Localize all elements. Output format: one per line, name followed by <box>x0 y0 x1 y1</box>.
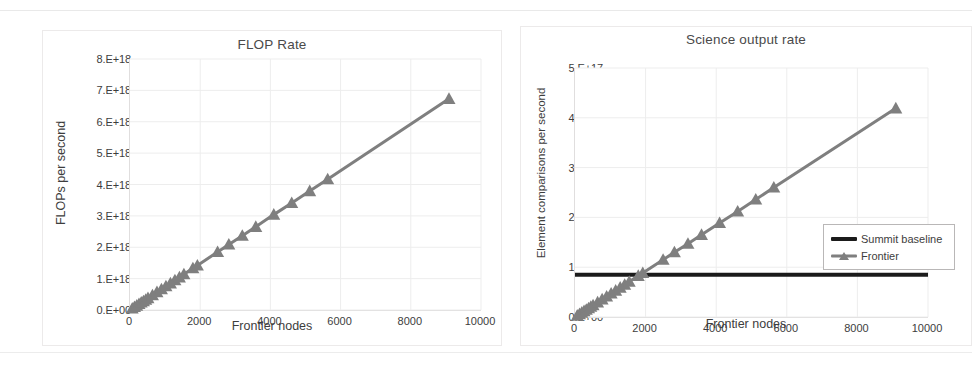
y-tick-label: 2.E+18 <box>96 241 131 253</box>
legend-triangle-marker-icon <box>839 252 849 260</box>
x-tick-label: 8000 <box>844 322 868 334</box>
legend-swatch-frontier <box>831 251 857 261</box>
x-tick-label: 6000 <box>327 315 351 327</box>
y-tick-label: 3.E+18 <box>96 210 131 222</box>
x-tick-label: 10000 <box>465 315 496 327</box>
x-tick-label: 6000 <box>774 322 798 334</box>
y-tick-label: 8.E+18 <box>96 53 131 65</box>
plot-svg-science <box>575 68 928 317</box>
legend-swatch-summit-baseline <box>831 234 857 244</box>
x-tick-label: 2000 <box>187 315 211 327</box>
chart-flop-rate: FLOP Rate FLOPs per second 0.E+001.E+182… <box>42 30 502 346</box>
y-tick-labels-flop: 0.E+001.E+182.E+183.E+184.E+185.E+186.E+… <box>53 31 131 345</box>
y-tick-label: 1.E+18 <box>96 273 131 285</box>
figure-container: FLOP Rate FLOPs per second 0.E+001.E+182… <box>0 0 972 368</box>
plot-svg-flop <box>130 59 481 310</box>
y-tick-label: 6.E+18 <box>96 116 131 128</box>
x-tick-label: 10000 <box>912 322 943 334</box>
x-tick-label: 0 <box>126 315 132 327</box>
y-tick-label: 5.E+18 <box>96 147 131 159</box>
legend-label-summit-baseline: Summit baseline <box>861 233 942 245</box>
x-tick-label: 4000 <box>257 315 281 327</box>
legend-label-frontier: Frontier <box>861 250 899 262</box>
x-tick-label: 2000 <box>632 322 656 334</box>
y-tick-label: 4.E+18 <box>96 179 131 191</box>
chart-science-output-rate: Science output rate Element comparisons … <box>520 26 972 346</box>
x-axis-label-science: Frontier nodes <box>521 317 971 331</box>
legend-item-frontier[interactable]: Frontier <box>831 247 945 264</box>
plot-area-flop <box>129 59 481 311</box>
x-tick-label: 4000 <box>703 322 727 334</box>
plot-area-science: Summit baseline Frontier <box>574 68 928 318</box>
chart-legend: Summit baseline Frontier <box>823 224 955 270</box>
y-tick-label: 7.E+18 <box>96 84 131 96</box>
x-tick-label: 8000 <box>398 315 422 327</box>
x-tick-label: 0 <box>571 322 577 334</box>
legend-item-summit-baseline[interactable]: Summit baseline <box>831 230 945 247</box>
